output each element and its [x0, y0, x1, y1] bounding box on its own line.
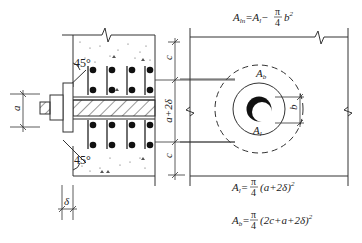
svg-text:4: 4 — [275, 17, 280, 28]
diagram-canvas: a δ 45° 45° c a+2δ c — [0, 0, 362, 243]
dim-c-top-label: c — [162, 55, 174, 60]
dim-c-bottom-label: c — [162, 153, 174, 158]
dim-b-label: b — [287, 104, 299, 110]
svg-text:b2: b2 — [284, 10, 294, 23]
svg-text:4: 4 — [251, 220, 256, 231]
dim-middle-label: a+2δ — [162, 98, 174, 122]
area-Al-label: Al — [252, 124, 262, 138]
angle-bottom-label: 45° — [74, 153, 91, 167]
area-Ab-label: Ab — [255, 67, 267, 81]
svg-text:Aln=Al−: Aln=Al− — [232, 11, 269, 25]
formula-Ab: Ab= π 4 (2c+a+2δ)2 — [231, 209, 313, 231]
angle-top-label: 45° — [74, 56, 91, 70]
anchor-bolt — [40, 83, 155, 132]
formula-Al: Al= π 4 (a+2δ)2 — [231, 176, 295, 198]
svg-text:Ab=: Ab= — [231, 214, 250, 228]
svg-text:4: 4 — [251, 187, 256, 198]
svg-text:π: π — [275, 6, 280, 17]
bolt-hole — [247, 97, 273, 123]
svg-text:Al=: Al= — [231, 181, 248, 195]
formula-Aln: Aln=Al− π 4 b2 — [232, 6, 294, 28]
svg-text:(a+2δ)2: (a+2δ)2 — [260, 180, 295, 194]
dim-a-label: a — [10, 105, 22, 111]
dim-delta-label: δ — [64, 195, 70, 207]
svg-text:(2c+a+2δ)2: (2c+a+2δ)2 — [260, 213, 313, 227]
svg-text:π: π — [251, 176, 256, 187]
svg-text:π: π — [251, 209, 256, 220]
